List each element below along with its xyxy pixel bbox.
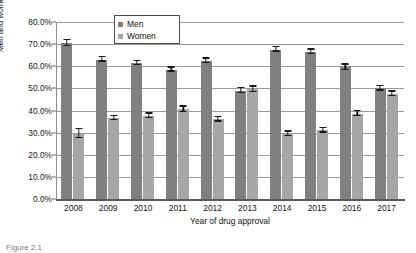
bar-men-2016 <box>340 67 351 199</box>
y-tick-label-600: 60.0% <box>8 61 52 71</box>
bar-women-2014 <box>282 134 293 199</box>
bar-men-2011 <box>166 70 177 199</box>
error-bar-cap-top <box>354 110 361 111</box>
bar-men-2017 <box>375 88 386 199</box>
error-bar-cap-bottom <box>215 120 222 121</box>
error-bar-cap-top <box>63 39 70 40</box>
error-bar-cap-bottom <box>389 95 396 96</box>
y-tick-label-200: 20.0% <box>8 150 52 160</box>
error-bar-cap-top <box>203 57 210 58</box>
bar-men-2008 <box>61 43 72 199</box>
error-bar-cap-top <box>133 60 140 61</box>
bar-women-2008 <box>73 134 84 199</box>
legend-item-women[interactable]: Women <box>118 30 176 42</box>
error-bar-cap-top <box>377 85 384 86</box>
error-bar-cap-bottom <box>307 53 314 54</box>
legend-label: Men <box>127 20 143 28</box>
y-tick-label-800: 80.0% <box>8 17 52 27</box>
error-bar-cap-bottom <box>110 119 117 120</box>
bar-group-2016 <box>340 22 364 199</box>
error-bar-cap-bottom <box>237 92 244 93</box>
error-bar-cap-top <box>180 105 187 106</box>
error-bar-cap-bottom <box>354 115 361 116</box>
bar-group-2017 <box>375 22 399 199</box>
bar-group-2011 <box>166 22 190 199</box>
bar-men-2012 <box>201 61 212 199</box>
legend-item-men[interactable]: Men <box>118 18 176 30</box>
error-bar-cap-top <box>272 46 279 47</box>
error-bar-cap-top <box>307 48 314 49</box>
bar-women-2011 <box>178 109 189 199</box>
y-axis-ticks: 0.0%10.0%20.0%30.0%40.0%50.0%60.0%70.0%8… <box>0 22 52 199</box>
bar-women-2012 <box>213 119 224 199</box>
bar-group-2009 <box>96 22 120 199</box>
error-bar-cap-bottom <box>272 50 279 51</box>
chart-legend: MenWomen <box>114 15 180 44</box>
error-bar-cap-top <box>237 87 244 88</box>
bar-group-2014 <box>270 22 294 199</box>
bar-women-2016 <box>352 114 363 199</box>
bar-women-2015 <box>317 130 328 199</box>
error-bar-cap-top <box>284 130 291 131</box>
y-tick-label-700: 70.0% <box>8 39 52 49</box>
error-bar-cap-top <box>145 112 152 113</box>
error-bar-cap-bottom <box>168 70 175 71</box>
bar-women-2017 <box>387 94 398 199</box>
bar-group-2013 <box>235 22 259 199</box>
bar-men-2009 <box>96 60 107 199</box>
bar-men-2015 <box>305 52 316 199</box>
legend-label: Women <box>127 32 156 40</box>
error-bar-cap-bottom <box>377 89 384 90</box>
x-axis-ticks: 2008200920102011201220132014201520162017 <box>56 201 404 217</box>
bar-group-2012 <box>201 22 225 199</box>
error-bar-cap-bottom <box>342 69 349 70</box>
y-tick-label-400: 40.0% <box>8 106 52 116</box>
bar-women-2010 <box>143 116 154 199</box>
x-tick-label-2017: 2017 <box>367 203 407 213</box>
error-bar-cap-top <box>249 85 256 86</box>
error-bar-cap-bottom <box>133 64 140 65</box>
error-bar-cap-bottom <box>284 135 291 136</box>
error-bar-cap-bottom <box>63 45 70 46</box>
error-bar-cap-top <box>215 116 222 117</box>
bar-group-2010 <box>131 22 155 199</box>
bar-women-2009 <box>108 118 119 199</box>
error-bar-cap-bottom <box>249 91 256 92</box>
figure-caption: Figure 2.1 <box>6 243 42 253</box>
error-bar-cap-top <box>319 127 326 128</box>
y-tick-label-300: 30.0% <box>8 128 52 138</box>
bar-group-2008 <box>61 22 85 199</box>
x-axis-title: Year of drug approval <box>56 216 404 226</box>
error-bar-cap-bottom <box>180 111 187 112</box>
legend-swatch-icon <box>118 22 123 27</box>
legend-swatch-icon <box>118 34 123 39</box>
error-bar-cap-top <box>98 56 105 57</box>
bar-group-2015 <box>305 22 329 199</box>
y-tick-label-100: 10.0% <box>8 172 52 182</box>
error-bar-cap-top <box>75 128 82 129</box>
error-bar-cap-top <box>168 66 175 67</box>
error-bar-cap-bottom <box>145 117 152 118</box>
bar-men-2014 <box>270 50 281 199</box>
bar-women-2013 <box>247 89 258 199</box>
bar-men-2013 <box>235 91 246 199</box>
error-bar-cap-top <box>110 115 117 116</box>
plot-area <box>56 22 404 199</box>
error-bar-cap-bottom <box>98 60 105 61</box>
error-bar-cap-bottom <box>319 131 326 132</box>
error-bar-cap-top <box>342 63 349 64</box>
error-bar-cap-top <box>389 90 396 91</box>
figure-container: Men and women participants (%) 0.0%10.0%… <box>0 0 416 253</box>
error-bar-cap-bottom <box>203 62 210 63</box>
y-tick-label-500: 50.0% <box>8 83 52 93</box>
y-tick-label-00: 0.0% <box>8 194 52 204</box>
bar-men-2010 <box>131 63 142 199</box>
error-bar-cap-bottom <box>75 137 82 138</box>
